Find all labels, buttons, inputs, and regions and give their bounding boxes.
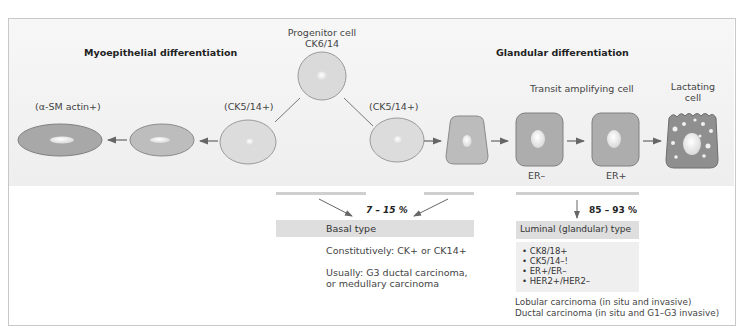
left-ck514-label: (CK5/14+)	[224, 101, 274, 112]
transit-cell-er-negative	[516, 113, 563, 166]
right-ck514-label: (CK5/14+)	[369, 101, 419, 112]
glandular-cell-ck514	[370, 118, 424, 162]
progenitor-label-line2: CK6/14	[282, 38, 362, 49]
basal-usually-line1: Usually: G3 ductal carcinoma,	[326, 267, 468, 278]
er-negative-label: ER–	[528, 170, 545, 181]
luminal-note-lobular: Lobular carcinoma (in situ and invasive)	[515, 297, 719, 308]
luminal-carcinoma-notes: Lobular carcinoma (in situ and invasive)…	[515, 297, 719, 319]
alpha-sm-actin-label: (α-SM actin+)	[35, 101, 101, 112]
transit-amplifying-label: Transit amplifying cell	[530, 83, 634, 94]
basal-usually-text: Usually: G3 ductal carcinoma, or medulla…	[326, 267, 468, 289]
glandular-heading: Glandular differentiation	[496, 47, 629, 58]
luminal-marker: • CK5/14–!	[522, 256, 633, 266]
luminal-marker: • ER+/ER–	[522, 266, 633, 276]
basal-percent: 7 – 15 %	[366, 205, 408, 215]
basal-usually-line2: or medullary carcinoma	[326, 278, 468, 289]
lactating-cell-label: Lactating cell	[668, 81, 718, 103]
basal-bar-left	[276, 192, 366, 195]
branch-line-left	[275, 98, 300, 122]
luminal-type-title: Luminal (glandular) type	[516, 221, 639, 239]
arrow-to-basal-right	[414, 199, 448, 216]
transit-cell-er-positive	[592, 113, 639, 166]
luminal-bar	[516, 192, 639, 195]
basal-type-title: Basal type	[276, 220, 474, 237]
arrow-to-basal-left	[319, 199, 352, 216]
progenitor-cell	[298, 52, 346, 100]
progenitor-label-line1: Progenitor cell	[282, 27, 362, 38]
basal-constitutively-text: Constitutively: CK+ or CK14+	[326, 245, 467, 256]
myoepithelial-cell-intermediate	[130, 124, 194, 156]
myoepithelial-cell-alpha-sm	[18, 124, 102, 156]
er-positive-label: ER+	[606, 170, 627, 181]
lactating-label-line2: cell	[668, 92, 718, 103]
luminal-note-ductal: Ductal carcinoma (in situ and G1–G3 inva…	[515, 308, 719, 319]
luminal-percent: 85 – 93 %	[589, 205, 637, 215]
progenitor-label: Progenitor cell CK6/14	[282, 27, 362, 49]
luminal-marker: • CK8/18+	[522, 246, 633, 256]
myoepithelial-heading: Myoepithelial differentiation	[84, 47, 237, 58]
lactating-label-line1: Lactating	[668, 81, 718, 92]
lactating-cell	[666, 114, 718, 169]
basal-bar-right	[424, 192, 474, 195]
myoepithelial-cell-ck514	[220, 120, 276, 164]
luminal-marker: • HER2+/HER2–	[522, 276, 633, 286]
glandular-cell-trapezoid	[446, 116, 488, 164]
luminal-markers-list: • CK8/18+ • CK5/14–! • ER+/ER– • HER2+/H…	[516, 242, 639, 292]
